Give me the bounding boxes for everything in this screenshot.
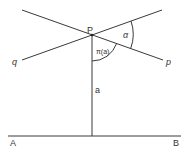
- label-a: a: [95, 85, 100, 95]
- label-q: q: [12, 57, 17, 67]
- angle-of-parallelism-diagram: P α π(a) q p a A B: [0, 0, 189, 158]
- label-p: p: [165, 57, 171, 67]
- label-alpha: α: [123, 30, 129, 40]
- label-pi-a: π(a): [96, 48, 109, 56]
- label-B: B: [173, 138, 179, 148]
- label-A: A: [10, 138, 16, 148]
- angle-alpha-arc: [131, 21, 134, 49]
- label-P: P: [87, 25, 93, 35]
